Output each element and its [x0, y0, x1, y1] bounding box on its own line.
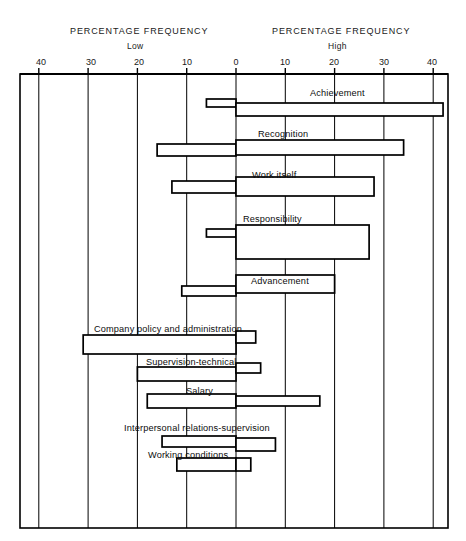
bar-low-salary — [147, 394, 236, 408]
bar-high-responsibility — [236, 225, 369, 259]
herzberg-two-factor-chart: PERCENTAGE FREQUENCY Low PERCENTAGE FREQ… — [0, 0, 466, 541]
bar-high-working_conditions — [236, 458, 251, 471]
bar-high-achievement — [236, 103, 443, 116]
bar-label-company-policy: Company policy and administration — [94, 324, 242, 334]
bar-label-salary: Salary — [186, 386, 213, 396]
axis-tick-marks — [20, 68, 448, 74]
bar-high-supervision — [236, 363, 261, 373]
bar-low-advancement — [182, 286, 236, 296]
bar-label-responsibility: Responsibility — [243, 214, 302, 224]
bar-low-responsibility — [206, 229, 236, 237]
bar-high-recognition — [236, 140, 404, 155]
bar-low-recognition — [157, 144, 236, 156]
plot-area — [0, 0, 466, 541]
bar-low-company_policy — [83, 335, 236, 354]
bar-label-achievement: Achievement — [310, 88, 365, 98]
bar-low-achievement — [206, 99, 236, 107]
bar-label-work-itself: Work itself — [252, 170, 296, 180]
bar-high-interpersonal — [236, 438, 275, 451]
bar-label-interpersonal: Interpersonal relations-supervision — [124, 423, 270, 433]
bar-low-supervision — [137, 367, 236, 381]
bar-label-advancement: Advancement — [251, 276, 309, 286]
bar-label-recognition: Recognition — [258, 129, 308, 139]
bar-low-work_itself — [172, 181, 236, 193]
bar-high-salary — [236, 396, 320, 406]
bar-low-interpersonal — [162, 436, 236, 447]
bar-label-working-conditions: Working conditions — [148, 450, 228, 460]
bar-label-supervision: Supervision-technical — [146, 357, 236, 367]
